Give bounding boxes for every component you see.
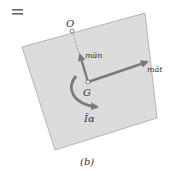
figure-caption: (b) (80, 156, 94, 167)
label-G: G (83, 87, 91, 98)
label-normal-force: ma̅n (85, 51, 103, 60)
point-G (86, 80, 90, 84)
label-O: O (66, 18, 74, 29)
point-O (70, 29, 74, 33)
label-moment: Īα (83, 113, 95, 124)
equals-sign (12, 9, 23, 15)
label-tangential-force: ma̅t (147, 65, 163, 74)
kinetic-diagram: O G ma̅n ma̅t Īα (b) (0, 0, 177, 176)
